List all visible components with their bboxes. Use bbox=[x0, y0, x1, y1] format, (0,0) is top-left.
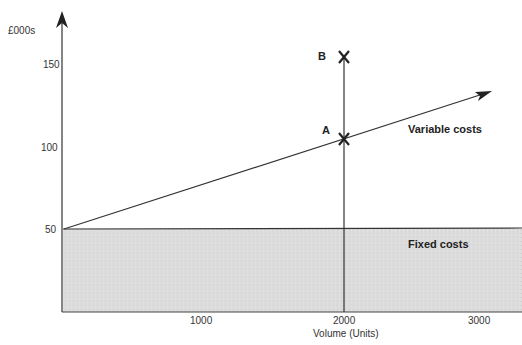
x-tick-1000: 1000 bbox=[190, 315, 212, 326]
x-tick-2000: 2000 bbox=[333, 315, 355, 326]
y-tick-100: 100 bbox=[41, 142, 58, 153]
fixed-costs-label: Fixed costs bbox=[408, 238, 469, 250]
y-axis-unit-label: £000s bbox=[8, 25, 35, 36]
variable-costs-line bbox=[64, 93, 486, 229]
point-a-label: A bbox=[322, 124, 330, 136]
point-b-label: B bbox=[318, 50, 326, 62]
y-tick-50: 50 bbox=[45, 224, 56, 235]
chart-canvas bbox=[0, 0, 522, 345]
x-tick-3000: 3000 bbox=[468, 315, 490, 326]
y-tick-150: 150 bbox=[43, 59, 60, 70]
x-axis-title: Volume (Units) bbox=[313, 328, 379, 339]
fixed-costs-line bbox=[63, 228, 522, 229]
variable-costs-label: Variable costs bbox=[408, 123, 482, 135]
